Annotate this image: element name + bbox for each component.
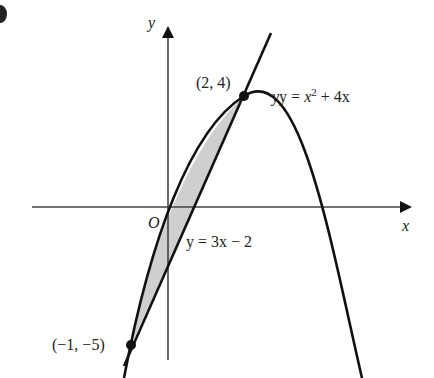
- line-equation-label: y = 3x − 2: [186, 233, 252, 251]
- point-neg1-neg5: [126, 340, 136, 350]
- x-axis-arrow-icon: [400, 201, 412, 213]
- y-axis-label: y: [148, 14, 155, 32]
- x-axis-label: x: [402, 217, 409, 235]
- parabola-equation-label: yy = x2 + 4x: [272, 86, 350, 106]
- point-label-2-4: (2, 4): [196, 74, 231, 92]
- origin-label: O: [148, 214, 160, 232]
- point-label-neg1-neg5: (−1, −5): [52, 336, 105, 354]
- parabola-rest: + 4x: [317, 88, 350, 105]
- point-2-4: [239, 91, 249, 101]
- y-axis-arrow-icon: [162, 26, 174, 38]
- graph: [0, 0, 434, 378]
- equals-sign: y =: [279, 88, 304, 105]
